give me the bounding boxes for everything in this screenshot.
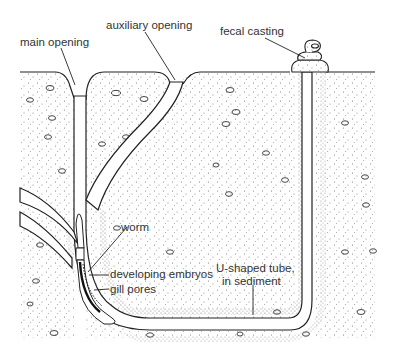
label-developing-embryos: developing embryos <box>110 268 213 281</box>
label-fecal-casting: fecal casting <box>220 25 284 38</box>
label-in-sediment: in sediment <box>222 275 281 288</box>
label-u-shaped-tube: U-shaped tube, <box>216 262 295 275</box>
fecal-casting <box>292 40 329 72</box>
label-main-opening: main opening <box>20 36 89 49</box>
label-worm: worm <box>121 221 149 234</box>
burrow-diagram <box>0 0 397 360</box>
label-gill-pores: gill pores <box>110 283 156 296</box>
label-auxiliary-opening: auxiliary opening <box>106 19 192 32</box>
sediment <box>20 72 375 342</box>
